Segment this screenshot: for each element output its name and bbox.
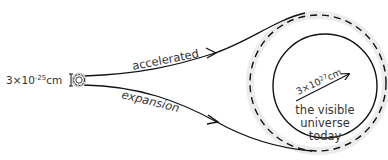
inflation-diagram: 3×10-25cm accelerated expansion 3×1027cm… xyxy=(0,0,388,160)
universe-label-line1: the visible xyxy=(295,103,354,117)
path-label-expansion: expansion xyxy=(120,87,181,115)
universe-label-line3: today xyxy=(309,129,342,143)
initial-size-label: 3×10-25cm xyxy=(6,74,62,86)
universe-radius-label: 3×1027cm xyxy=(294,66,343,97)
universe-label-line2: universe xyxy=(300,116,349,130)
path-label-accelerated: accelerated xyxy=(131,46,200,73)
expansion-path-top xyxy=(84,13,305,76)
